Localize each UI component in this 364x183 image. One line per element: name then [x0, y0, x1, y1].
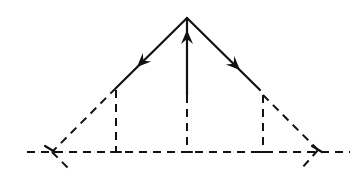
right-extension: [263, 95, 318, 150]
vector-diagram: [0, 0, 364, 183]
vectors: [116, 18, 260, 95]
left-vector: [116, 18, 187, 88]
dashed-extensions: [45, 88, 322, 170]
right-vector: [187, 18, 260, 90]
projection-lines: [111, 90, 268, 152]
left-extension: [52, 88, 116, 152]
left-extension-below: [52, 152, 70, 170]
